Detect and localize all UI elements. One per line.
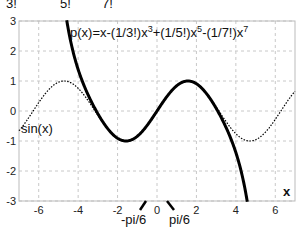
svg-text:3!: 3! [6, 0, 17, 11]
x-tick-label: 0 [154, 204, 160, 216]
x-tick-label: 4 [233, 204, 239, 216]
y-tick-label: -3 [6, 195, 16, 207]
neg-pi6-marker [140, 201, 146, 210]
header-fragment: 3! 5! 7! [6, 0, 113, 11]
y-tick-label: -2 [6, 165, 16, 177]
taylor-series-chart: 3! 5! 7! -3-2-10123 -6-4-20246 p(x)=x-(1… [0, 0, 305, 237]
x-tick-label: 6 [272, 204, 278, 216]
y-tick-label: 2 [10, 45, 16, 57]
y-tick-label: 0 [10, 105, 16, 117]
pos-pi6-label: pi/6 [169, 212, 190, 227]
formula-label: p(x)=x-(1/3!)x3+(1/5!)x5-(1/7!)x7 [70, 24, 248, 40]
y-tick-label: -1 [6, 135, 16, 147]
x-tick-label: 2 [193, 204, 199, 216]
neg-pi6-label: -pi/6 [121, 212, 146, 227]
x-tick-label: -4 [73, 204, 83, 216]
svg-text:5!: 5! [60, 0, 71, 11]
pos-pi6-marker [167, 201, 174, 210]
x-tick-label: -6 [34, 204, 44, 216]
y-tick-label: 3 [10, 15, 16, 27]
y-tick-label: 1 [10, 75, 16, 87]
sin-label: sin(x) [21, 121, 53, 136]
svg-text:7!: 7! [102, 0, 113, 11]
x-axis-label: x [283, 184, 291, 199]
x-tick-labels: -6-4-20246 [34, 204, 279, 216]
y-tick-labels: -3-2-10123 [6, 15, 16, 207]
